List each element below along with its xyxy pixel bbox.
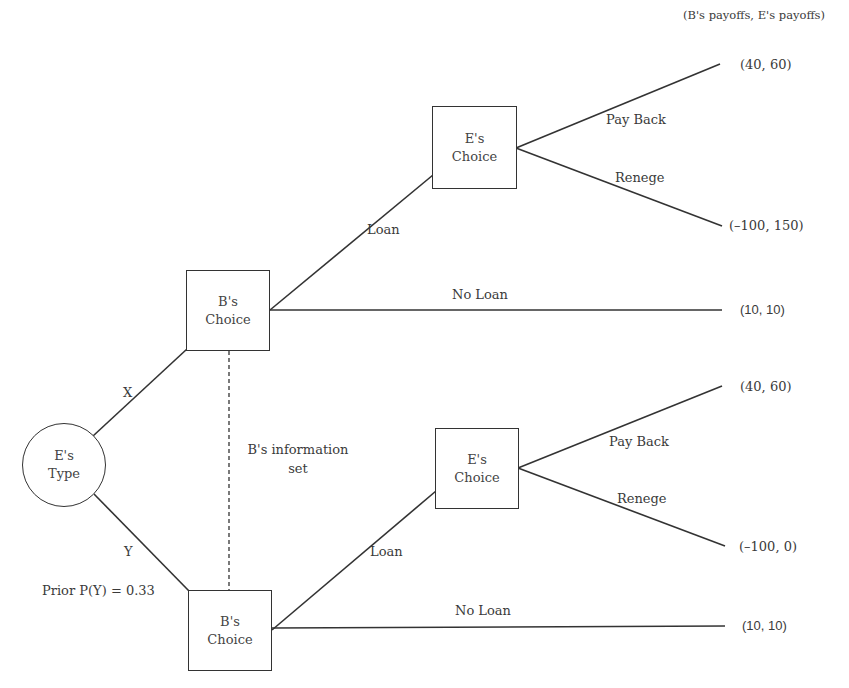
lower-b-choice-node: B's Choice [188,590,272,671]
upper-renege-label: Renege [615,171,665,184]
edge-lower-pay-back [518,386,722,468]
root-node-line1: E's [54,447,74,465]
lower-payoff-no-loan: (10, 10) [742,619,787,632]
edge-x [93,349,187,436]
lower-payoff-pay-back: (40, 60) [740,380,792,393]
branch-label-y: Y [124,545,133,558]
lower-no-loan-label: No Loan [455,604,511,617]
edge-y [94,494,189,591]
upper-payoff-pay-back: (40, 60) [740,58,792,71]
lower-renege-label: Renege [617,492,667,505]
lower-e-line1: E's [467,451,487,469]
upper-loan-label: Loan [367,223,400,236]
information-set-label: B's information set [242,441,354,479]
upper-e-line2: Choice [452,148,497,166]
upper-pay-back-label: Pay Back [606,113,666,126]
upper-b-line1: B's [218,293,238,311]
edge-lower-renege [518,468,725,546]
information-set-line1: B's information [242,441,354,460]
lower-loan-label: Loan [370,545,403,558]
upper-b-choice-node: B's Choice [186,270,270,351]
lower-e-line2: Choice [454,469,499,487]
edge-lower-loan [272,491,436,630]
upper-no-loan-label: No Loan [452,288,508,301]
lower-pay-back-label: Pay Back [609,435,669,448]
root-node-line2: Type [48,465,80,483]
lower-b-line2: Choice [207,631,252,649]
root-node-e-type: E's Type [22,423,106,507]
lower-payoff-renege: (–100, 0) [739,540,797,553]
upper-e-choice-node: E's Choice [432,106,517,189]
edge-lower-no-loan [272,626,725,628]
branch-label-x: X [123,386,132,399]
upper-e-line1: E's [465,130,485,148]
lower-b-line1: B's [220,613,240,631]
edge-upper-pay-back [516,64,720,148]
upper-payoff-renege: (–100, 150) [729,219,804,232]
information-set-line2: set [242,460,354,479]
payoff-legend: (B's payoffs, E's payoffs) [683,10,825,22]
edge-upper-loan [270,175,433,310]
lower-e-choice-node: E's Choice [435,428,519,509]
prior-label: Prior P(Y) = 0.33 [42,584,155,597]
upper-payoff-no-loan: (10, 10) [740,303,785,316]
edge-upper-renege [516,148,722,226]
upper-b-line2: Choice [205,311,250,329]
